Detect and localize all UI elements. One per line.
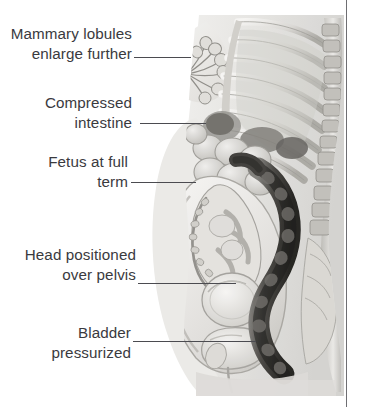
label-bladder-pressurized: Bladder pressurized [4, 323, 131, 362]
label-fetus-at-full-term: Fetus at full term [4, 152, 128, 191]
label-mammary-lobules: Mammary lobules enlarge further [4, 24, 132, 63]
label-compressed-intestine: Compressed intestine [4, 93, 132, 132]
page-margin-rule [346, 0, 347, 407]
label-head-positioned-over-pelvis: Head positioned over pelvis [4, 245, 136, 284]
figure-page: Mammary lobules enlarge further Compress… [0, 0, 365, 407]
leader-line-mammary [134, 57, 191, 58]
leader-line-fetus [131, 182, 196, 183]
leader-line-bladder [133, 341, 256, 342]
leader-line-head [138, 283, 236, 284]
leader-line-intestine [140, 123, 206, 124]
